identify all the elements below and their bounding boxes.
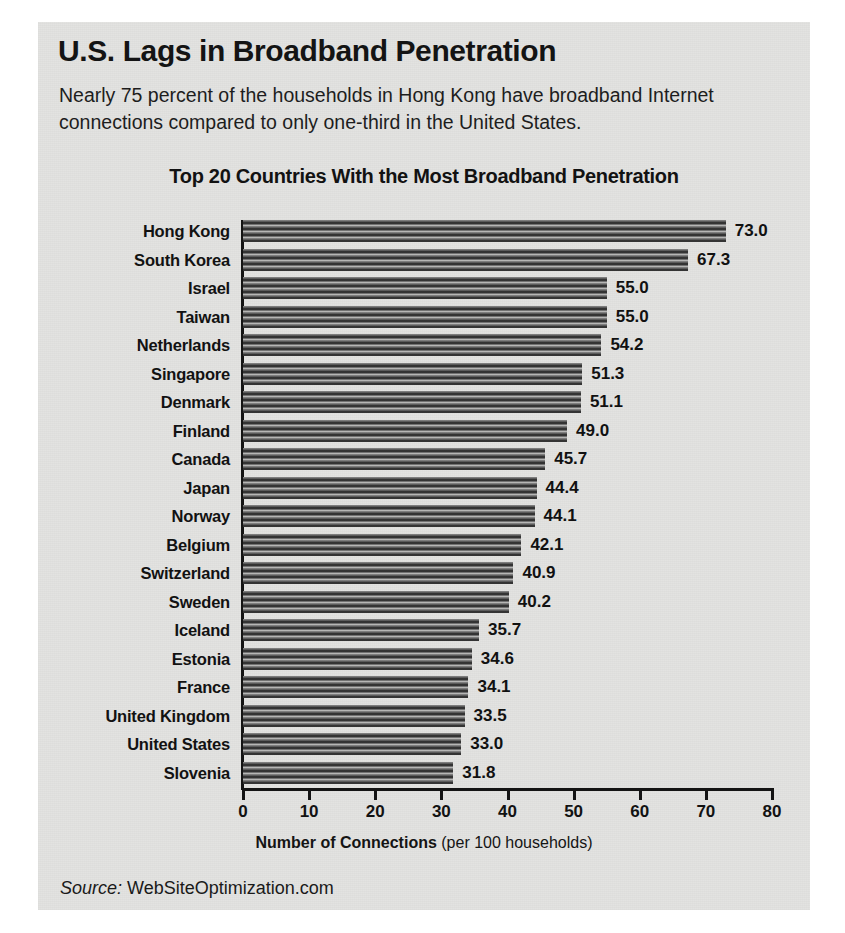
axis-tick-label: 70 [676, 802, 736, 822]
bar-row: Norway44.1 [38, 503, 810, 529]
bar-value-label: 34.6 [481, 646, 514, 672]
bar-track: 49.0 [243, 418, 810, 444]
bar-track: 51.1 [243, 389, 810, 415]
bar-row: United Kingdom33.5 [38, 703, 810, 729]
category-label: Norway [38, 503, 230, 529]
bar-track: 67.3 [243, 247, 810, 273]
chart-plot-area: Hong Kong73.0South Korea67.3Israel55.0Ta… [38, 218, 810, 788]
bar-row: France34.1 [38, 674, 810, 700]
bar-row: Estonia34.6 [38, 646, 810, 672]
bar-row: Iceland35.7 [38, 617, 810, 643]
bar-track: 44.4 [243, 475, 810, 501]
headline: U.S. Lags in Broadband Penetration [58, 34, 788, 67]
bar [243, 448, 545, 470]
bar-value-label: 55.0 [616, 304, 649, 330]
source-label: Source: [60, 878, 122, 898]
bar-value-label: 42.1 [530, 532, 563, 558]
bar-value-label: 33.5 [474, 703, 507, 729]
axis-tick-label: 80 [742, 802, 802, 822]
axis-tick-label: 30 [411, 802, 471, 822]
bar-value-label: 33.0 [470, 731, 503, 757]
bar-row: Sweden40.2 [38, 589, 810, 615]
category-label: Hong Kong [38, 218, 230, 244]
bar [243, 505, 535, 527]
bar-track: 51.3 [243, 361, 810, 387]
axis-tick [705, 788, 708, 800]
bar [243, 676, 468, 698]
bar-track: 54.2 [243, 332, 810, 358]
bar [243, 220, 726, 242]
category-label: Denmark [38, 389, 230, 415]
bar [243, 420, 567, 442]
bar-row: Japan44.4 [38, 475, 810, 501]
bar-value-label: 31.8 [462, 760, 495, 786]
value-axis-title: Number of Connections (per 100 household… [38, 834, 810, 852]
bar-row: Hong Kong73.0 [38, 218, 810, 244]
infographic-panel: U.S. Lags in Broadband Penetration Nearl… [38, 22, 810, 910]
bar [243, 334, 601, 356]
bar-track: 55.0 [243, 304, 810, 330]
bar [243, 363, 582, 385]
axis-tick-label: 60 [610, 802, 670, 822]
category-label: Slovenia [38, 760, 230, 786]
bar-value-label: 34.1 [477, 674, 510, 700]
bar-value-label: 67.3 [697, 247, 730, 273]
category-label: Taiwan [38, 304, 230, 330]
bar [243, 591, 509, 613]
category-label: Israel [38, 275, 230, 301]
bar-track: 33.0 [243, 731, 810, 757]
axis-tick-label: 0 [213, 802, 273, 822]
axis-tick [639, 788, 642, 800]
bar-row: Israel55.0 [38, 275, 810, 301]
bar-value-label: 54.2 [610, 332, 643, 358]
bar [243, 477, 537, 499]
category-label: Netherlands [38, 332, 230, 358]
bar-row: Belgium42.1 [38, 532, 810, 558]
bar [243, 391, 581, 413]
category-label: Iceland [38, 617, 230, 643]
category-label: Sweden [38, 589, 230, 615]
bar-track: 35.7 [243, 617, 810, 643]
bar [243, 306, 607, 328]
category-label: Finland [38, 418, 230, 444]
bar-track: 45.7 [243, 446, 810, 472]
bar-track: 55.0 [243, 275, 810, 301]
axis-tick-label: 20 [345, 802, 405, 822]
bar-value-label: 40.2 [518, 589, 551, 615]
bar-row: Canada45.7 [38, 446, 810, 472]
bar-value-label: 55.0 [616, 275, 649, 301]
bar [243, 249, 688, 271]
bar-value-label: 51.3 [591, 361, 624, 387]
bar-value-label: 73.0 [735, 218, 768, 244]
axis-title-strong: Number of Connections [255, 834, 436, 851]
bar-row: Finland49.0 [38, 418, 810, 444]
bar-row: Singapore51.3 [38, 361, 810, 387]
bar-value-label: 51.1 [590, 389, 623, 415]
bar-row: Switzerland40.9 [38, 560, 810, 586]
bar-value-label: 40.9 [522, 560, 555, 586]
axis-tick [507, 788, 510, 800]
bar-track: 33.5 [243, 703, 810, 729]
axis-tick [242, 788, 245, 800]
bar-row: South Korea67.3 [38, 247, 810, 273]
axis-tick [440, 788, 443, 800]
bar-track: 40.9 [243, 560, 810, 586]
bar-value-label: 44.4 [546, 475, 579, 501]
bar-value-label: 49.0 [576, 418, 609, 444]
bar-track: 31.8 [243, 760, 810, 786]
bar [243, 733, 461, 755]
bar-track: 44.1 [243, 503, 810, 529]
axis-tick [573, 788, 576, 800]
category-label: Estonia [38, 646, 230, 672]
bar-track: 42.1 [243, 532, 810, 558]
bar-track: 34.6 [243, 646, 810, 672]
bar [243, 648, 472, 670]
bar-row: Slovenia31.8 [38, 760, 810, 786]
axis-tick [771, 788, 774, 800]
bar-row: Taiwan55.0 [38, 304, 810, 330]
bar [243, 277, 607, 299]
chart-title: Top 20 Countries With the Most Broadband… [38, 165, 810, 188]
bar-value-label: 44.1 [544, 503, 577, 529]
bar [243, 619, 479, 641]
axis-tick [374, 788, 377, 800]
